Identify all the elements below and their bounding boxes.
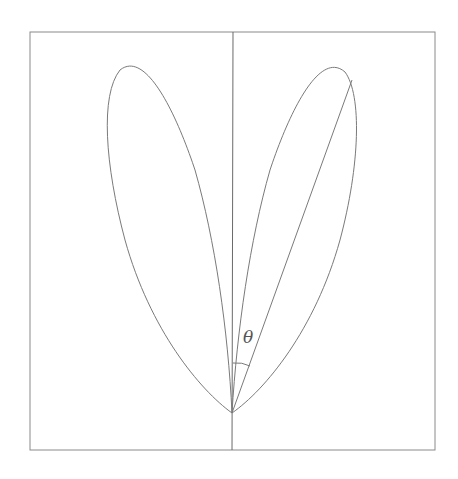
diagram-canvas: [0, 0, 458, 479]
vertical-axis: [232, 32, 233, 450]
radius-line: [232, 80, 352, 413]
theta-label: θ: [243, 327, 253, 347]
left-lobe: [107, 66, 232, 413]
